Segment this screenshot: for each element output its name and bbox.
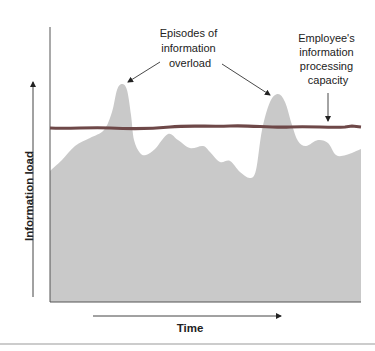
capacity-label-line-4: capacity <box>308 74 349 86</box>
capacity-label-line-1: Employee's <box>298 32 355 44</box>
episode-arrow-left <box>128 62 160 82</box>
information-load-area <box>50 84 361 302</box>
capacity-label: Employee's information processing capaci… <box>298 32 358 86</box>
y-axis-label: Information load <box>23 151 35 241</box>
x-axis-label: Time <box>177 322 204 334</box>
capacity-label-line-2: information <box>299 46 353 58</box>
capacity-line <box>50 126 361 129</box>
information-overload-diagram: Episodes of information overload Employe… <box>0 0 375 351</box>
episodes-label: Episodes of information overload <box>160 27 221 69</box>
episodes-label-line-3: overload <box>169 57 211 69</box>
capacity-label-line-3: processing <box>300 60 353 72</box>
episodes-label-line-2: information <box>161 42 215 54</box>
episode-arrow-right <box>222 64 270 95</box>
episodes-label-line-1: Episodes of <box>160 27 218 39</box>
